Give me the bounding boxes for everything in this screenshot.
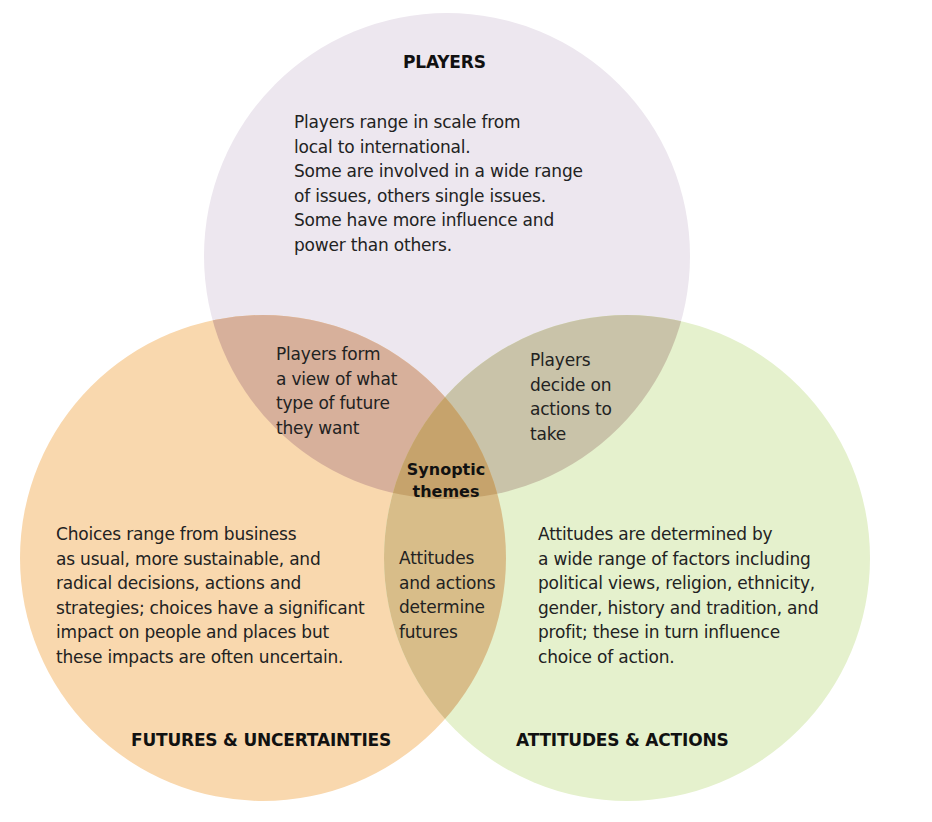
text-line: political views, religion, ethnicity,	[538, 571, 818, 596]
text-line: Choices range from business	[56, 522, 364, 547]
players-futures-text: Players form a view of what type of futu…	[276, 342, 397, 440]
text-line: Attitudes	[399, 546, 495, 571]
text-line: a wide range of factors including	[538, 547, 818, 572]
text-line: Synoptic	[396, 459, 496, 481]
text-line: strategies; choices have a significant	[56, 596, 364, 621]
text-line: Some have more influence and	[294, 208, 583, 233]
text-line: Players form	[276, 342, 397, 367]
text-line: profit; these in turn influence	[538, 620, 818, 645]
futures-title: FUTURES & UNCERTAINTIES	[131, 730, 391, 750]
text-line: these impacts are often uncertain.	[56, 645, 364, 670]
text-line: impact on people and places but	[56, 620, 364, 645]
players-title: PLAYERS	[403, 52, 486, 72]
text-line: decide on	[530, 373, 612, 398]
synoptic-themes-label: Synoptic themes	[396, 459, 496, 503]
futures-attitudes-text: Attitudes and actions determine futures	[399, 546, 495, 644]
text-line: Some are involved in a wide range	[294, 159, 583, 184]
text-line: Players	[530, 348, 612, 373]
attitudes-description: Attitudes are determined by a wide range…	[538, 522, 818, 669]
text-line: Attitudes are determined by	[538, 522, 818, 547]
text-line: local to international.	[294, 135, 583, 160]
text-line: actions to	[530, 397, 612, 422]
players-description: Players range in scale from local to int…	[294, 110, 583, 257]
text-line: a view of what	[276, 367, 397, 392]
players-attitudes-text: Players decide on actions to take	[530, 348, 612, 446]
text-line: power than others.	[294, 233, 583, 258]
text-line: as usual, more sustainable, and	[56, 547, 364, 572]
text-line: themes	[396, 481, 496, 503]
text-line: type of future	[276, 391, 397, 416]
text-line: of issues, others single issues.	[294, 184, 583, 209]
futures-description: Choices range from business as usual, mo…	[56, 522, 364, 669]
attitudes-title: ATTITUDES & ACTIONS	[516, 730, 728, 750]
text-line: they want	[276, 416, 397, 441]
text-line: Players range in scale from	[294, 110, 583, 135]
text-line: choice of action.	[538, 645, 818, 670]
text-line: gender, history and tradition, and	[538, 596, 818, 621]
text-line: radical decisions, actions and	[56, 571, 364, 596]
text-line: futures	[399, 620, 495, 645]
text-line: take	[530, 422, 612, 447]
text-line: and actions	[399, 571, 495, 596]
text-line: determine	[399, 595, 495, 620]
